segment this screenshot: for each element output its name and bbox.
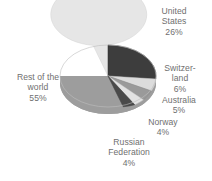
pie-slice-united-states: [108, 45, 156, 79]
pie-label-rest-of-the-world: Rest of the world 55%: [3, 72, 73, 103]
pie-label-switzerland: Switzer- land 6%: [150, 63, 210, 94]
pie-label-australia: Australia 5%: [148, 95, 210, 116]
pie-label-united-states: United States 26%: [142, 6, 206, 37]
pie-label-norway: Norway 4%: [132, 117, 194, 138]
pie-chart: United States 26% Switzer- land 6% Austr…: [0, 0, 212, 181]
pie-label-russian-federation: Russian Federation 4%: [93, 137, 165, 168]
